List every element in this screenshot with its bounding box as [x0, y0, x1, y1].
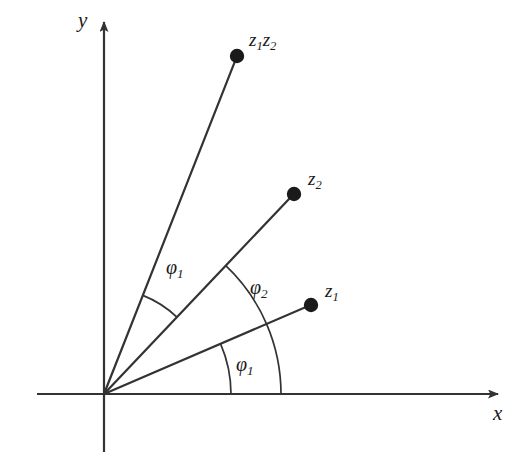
angle-label-phi1-upper-sub: 1 [177, 266, 184, 281]
arc-phi1-lower [221, 344, 231, 394]
point-label-z1: z1 [325, 281, 339, 303]
point-label-z1z2: z1z2 [249, 30, 276, 52]
ray-z1z2 [104, 57, 237, 394]
point-label-z1z2-base2: z [263, 29, 270, 50]
point-dot-z1z2 [230, 49, 244, 63]
point-label-z1z2-sub2: 2 [270, 39, 276, 53]
ray-z1 [104, 305, 311, 394]
complex-plane-figure: y x z1z2 z2 z1 φ1 φ2 φ1 [0, 0, 529, 471]
angle-label-phi2-sub: 2 [261, 286, 268, 301]
angle-label-phi1-lower-sub: 1 [247, 363, 254, 378]
point-label-z2-sub: 2 [315, 178, 321, 192]
angle-label-phi1-lower-symbol: φ [236, 353, 247, 375]
point-label-z2: z2 [308, 169, 322, 191]
angle-label-phi2-symbol: φ [250, 276, 261, 298]
arc-phi1-upper [143, 295, 177, 317]
angle-label-phi2: φ2 [250, 277, 268, 300]
angle-label-phi1-lower: φ1 [236, 354, 254, 377]
angle-label-phi1-upper: φ1 [166, 257, 184, 280]
point-dot-z1 [304, 298, 318, 312]
x-axis-label: x [493, 403, 502, 424]
y-axis-label: y [78, 10, 87, 31]
point-dot-z2 [287, 187, 301, 201]
angle-label-phi1-upper-symbol: φ [166, 256, 177, 278]
diagram-canvas [0, 0, 529, 471]
point-label-z1-sub: 1 [332, 290, 338, 304]
